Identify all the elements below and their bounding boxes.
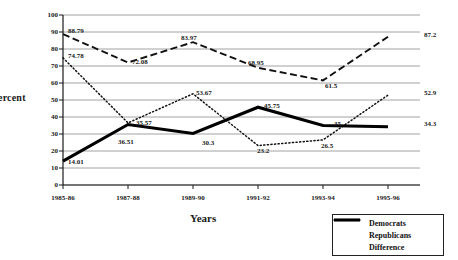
data-label-dem-1989-90: 83.97 xyxy=(181,34,197,42)
data-label-rep-1989-90: 53.67 xyxy=(196,89,212,97)
data-label-dem-1985-86: 88.79 xyxy=(68,27,84,35)
data-label-dif-1989-90: 30.3 xyxy=(202,139,214,147)
data-label-dif-1991-92: 45.75 xyxy=(264,102,280,110)
series-democrats xyxy=(63,34,388,80)
legend-swatch-difference xyxy=(337,243,365,253)
data-label-rep-1995-96: 52.9 xyxy=(424,89,436,97)
legend-label-democrats: Democrats xyxy=(369,219,406,229)
gridlines xyxy=(63,15,420,185)
data-label-rep-1993-94: 26.5 xyxy=(321,142,333,150)
data-label-dem-1987-88: 72.08 xyxy=(132,58,148,66)
data-label-rep-1991-92: 23.2 xyxy=(257,147,269,155)
data-label-dif-1985-86: 14.01 xyxy=(68,158,84,166)
data-label-dem-1991-92: 68.95 xyxy=(248,59,264,67)
legend-label-republicans: Republicans xyxy=(369,231,411,241)
legend-label-difference: Difference xyxy=(369,243,404,253)
data-label-dif-1993-94: 35 xyxy=(334,120,341,128)
data-label-rep-1985-86: 74.78 xyxy=(68,52,84,60)
legend: Democrats Republicans Difference xyxy=(332,214,444,256)
line-chart: ercent Years 100 90 80 70 60 50 40 30 20… xyxy=(0,0,458,260)
data-label-dem-1995-96: 87.2 xyxy=(424,31,436,39)
legend-item-difference[interactable]: Difference xyxy=(337,242,439,254)
data-label-dif-1987-88: 35.57 xyxy=(136,119,152,127)
data-label-rep-1987-88: 36.51 xyxy=(118,138,134,146)
data-label-dif-1995-96: 34.3 xyxy=(424,120,436,128)
data-label-dem-1993-94: 61.5 xyxy=(325,82,337,90)
x-tick-marks xyxy=(63,185,388,189)
legend-swatch-republicans xyxy=(337,231,365,241)
legend-item-republicans[interactable]: Republicans xyxy=(337,230,439,242)
